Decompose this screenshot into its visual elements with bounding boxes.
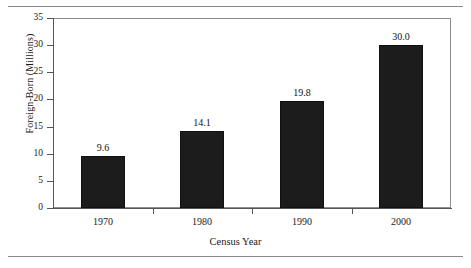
- bar-chart-figure: 05101520253035 1970198019902000 9.614.11…: [0, 0, 471, 268]
- y-axis-tick-label: 25: [0, 67, 43, 77]
- x-axis-category-label: 1980: [162, 216, 242, 227]
- bar-value-label: 19.8: [267, 87, 337, 98]
- y-axis-tick: [47, 154, 53, 155]
- x-axis-category-label: 1970: [63, 216, 143, 227]
- page-rule-bottom: [8, 256, 463, 257]
- y-axis-line: [53, 18, 54, 209]
- y-axis-tick: [47, 208, 53, 209]
- x-axis-category-label: 1990: [262, 216, 342, 227]
- y-axis-title: Foreign-Born (Millions): [24, 0, 35, 169]
- y-axis-tick-label: 20: [0, 94, 43, 104]
- y-axis-tick: [47, 45, 53, 46]
- y-axis-tick: [47, 127, 53, 128]
- x-axis-tick: [352, 209, 353, 214]
- y-axis-tick-label: 35: [0, 13, 43, 23]
- bar-value-label: 30.0: [366, 31, 436, 42]
- page-rule-top: [8, 6, 463, 7]
- y-axis-tick: [47, 18, 53, 19]
- y-axis-tick-label: 5: [0, 176, 43, 186]
- y-axis-tick: [47, 99, 53, 100]
- x-axis-tick: [153, 209, 154, 214]
- y-axis-tick-label: 30: [0, 40, 43, 50]
- x-axis-title: Census Year: [0, 236, 471, 247]
- bar: [180, 131, 224, 208]
- y-axis-tick-label: 15: [0, 122, 43, 132]
- y-axis-tick: [47, 72, 53, 73]
- bar-value-label: 14.1: [167, 117, 237, 128]
- bar: [280, 101, 324, 208]
- y-axis-tick: [47, 181, 53, 182]
- bar-value-label: 9.6: [68, 142, 138, 153]
- y-axis-tick-label: 10: [0, 149, 43, 159]
- y-axis-tick-label: 0: [0, 203, 43, 213]
- bar: [379, 45, 423, 208]
- x-axis-category-label: 2000: [361, 216, 441, 227]
- bar: [81, 156, 125, 208]
- x-axis-tick: [252, 209, 253, 214]
